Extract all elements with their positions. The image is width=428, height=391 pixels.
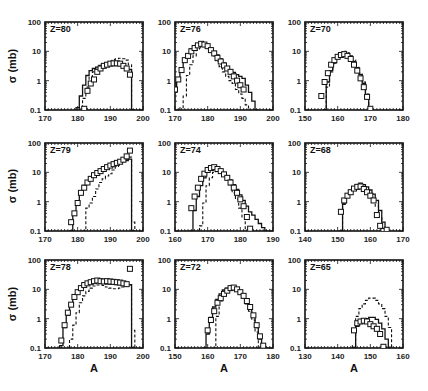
y-tick-label: 1 (37, 198, 42, 207)
data-point-marker (127, 266, 132, 271)
y-tick-label: 100 (158, 139, 172, 148)
series-group (338, 183, 389, 233)
series-group (59, 266, 135, 348)
data-point-marker (85, 88, 90, 93)
data-point-marker (189, 206, 194, 211)
x-tick-label: 150 (331, 235, 345, 244)
y-tick-label: 10 (32, 47, 41, 56)
x-tick-label: 160 (201, 352, 215, 361)
x-tick-label: 170 (201, 235, 215, 244)
x-tick-label: 150 (168, 352, 182, 361)
y-tick-label: 10 (32, 285, 41, 294)
y-tick-label: 100 (28, 256, 42, 265)
data-point-marker (82, 185, 87, 190)
data-point-marker (69, 220, 74, 225)
data-point-marker (248, 226, 253, 231)
panel-title: Z=80 (50, 24, 71, 34)
data-point-marker (244, 299, 249, 304)
panel-z76: 1001010.1170180190200Z=76 (158, 18, 281, 123)
panel-title: Z=74 (180, 145, 201, 155)
data-point-marker (195, 185, 200, 190)
y-tick-label: 1 (37, 315, 42, 324)
x-tick-label: 190 (104, 352, 118, 361)
data-point-marker (358, 76, 363, 81)
data-point-marker (78, 190, 83, 195)
x-tick-label: 140 (298, 235, 312, 244)
x-tick-label: 190 (104, 114, 118, 123)
x-tick-label: 180 (71, 235, 85, 244)
panel-title: Z=70 (310, 24, 331, 34)
y-tick-label: 10 (162, 168, 171, 177)
x-tick-label: 180 (266, 352, 280, 361)
data-point-marker (365, 94, 370, 99)
data-point-marker (124, 154, 129, 159)
data-point-marker (378, 332, 383, 337)
data-point-marker (199, 176, 204, 181)
x-tick-label: 180 (71, 352, 85, 361)
y-tick-label: 10 (292, 47, 301, 56)
x-tick-label: 170 (38, 114, 52, 123)
x-tick-label: 150 (364, 352, 378, 361)
data-point-marker (235, 190, 240, 195)
x-tick-label: 160 (364, 235, 378, 244)
y-tick-label: 100 (288, 18, 302, 27)
data-point-marker (325, 71, 330, 76)
data-point-marker (59, 338, 64, 343)
x-tick-label: 170 (396, 235, 410, 244)
x-tick-label: 180 (396, 114, 410, 123)
y-tick-label: 100 (28, 18, 42, 27)
x-tick-label: 190 (266, 235, 280, 244)
series-group (319, 51, 373, 111)
data-point-marker (208, 318, 213, 323)
figure-canvas: 1001010.1170180190200Z=801001010.1170180… (0, 0, 428, 391)
data-point-marker (261, 343, 266, 348)
y-tick-label: 10 (32, 168, 41, 177)
x-tick-label: 160 (168, 235, 182, 244)
x-tick-label: 200 (266, 114, 280, 123)
x-tick-label: 160 (331, 114, 345, 123)
data-point-marker (348, 56, 353, 61)
x-tick-label: 200 (136, 352, 150, 361)
y-tick-label: 100 (288, 256, 302, 265)
data-point-marker (127, 72, 132, 77)
data-point-marker (179, 68, 184, 73)
data-point-marker (244, 215, 249, 220)
plot-frame (305, 260, 403, 348)
data-point-marker (212, 309, 217, 314)
panel-title: Z=72 (180, 262, 201, 272)
y-tick-label: 10 (292, 285, 301, 294)
panel-z70: 1001010.1150160170180Z=70 (288, 18, 411, 123)
data-point-marker (231, 185, 236, 190)
plot-frame (45, 260, 143, 348)
data-point-marker (378, 223, 383, 228)
y-tick-label: 100 (158, 256, 172, 265)
solid-histogram-line (60, 282, 135, 348)
data-point-marker (92, 77, 97, 82)
panel-z78: 1001010.1170180190200Z=78 (28, 256, 151, 361)
x-tick-label: 190 (234, 114, 248, 123)
x-tick-label: 130 (298, 352, 312, 361)
panel-title: Z=76 (180, 24, 201, 34)
panel-title: Z=78 (50, 262, 71, 272)
data-point-marker (75, 201, 80, 206)
y-axis-title-row1: σ (mb) (6, 48, 18, 83)
data-point-marker (72, 211, 77, 216)
data-point-marker (319, 94, 324, 99)
panel-z80: 1001010.1170180190200Z=80 (28, 18, 151, 123)
data-point-marker (241, 204, 246, 209)
data-point-marker (371, 198, 376, 203)
data-point-marker (124, 66, 129, 71)
plot-frame (175, 143, 273, 231)
data-point-marker (62, 323, 67, 328)
data-point-marker (374, 213, 379, 218)
data-point-marker (192, 194, 197, 199)
y-axis-title-row2: σ (mb) (6, 168, 18, 203)
x-tick-label: 200 (136, 235, 150, 244)
panel-title: Z=68 (310, 145, 331, 155)
x-tick-label: 150 (298, 114, 312, 123)
data-point-marker (322, 80, 327, 85)
y-axis-title-row3: σ (mb) (6, 286, 18, 321)
data-point-marker (257, 334, 262, 339)
y-tick-label: 10 (162, 285, 171, 294)
series-group (189, 165, 268, 232)
